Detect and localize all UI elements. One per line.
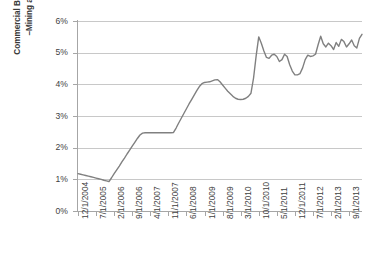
x-tick-mark bbox=[96, 212, 97, 216]
y-tick-mark bbox=[73, 116, 77, 117]
y-tick-label: 0% bbox=[38, 207, 68, 216]
x-tick-mark bbox=[205, 212, 206, 216]
y-tick-mark bbox=[73, 21, 77, 22]
x-tick-mark bbox=[349, 212, 350, 216]
plot-area bbox=[78, 21, 362, 211]
y-tick-label: 2% bbox=[38, 143, 68, 152]
x-tick-mark bbox=[78, 212, 79, 216]
y-tick-label: 5% bbox=[38, 48, 68, 57]
y-tick-label: 3% bbox=[38, 112, 68, 121]
y-tick-label: 1% bbox=[38, 175, 68, 184]
y-tick-mark bbox=[73, 148, 77, 149]
x-tick-mark bbox=[313, 212, 314, 216]
x-tick-mark bbox=[223, 212, 224, 216]
x-tick-mark bbox=[295, 212, 296, 216]
x-tick-mark bbox=[241, 212, 242, 216]
y-tick-mark bbox=[73, 179, 77, 180]
data-series-line bbox=[78, 21, 362, 211]
x-tick-mark bbox=[331, 212, 332, 216]
x-tick-mark bbox=[114, 212, 115, 216]
y-tick-mark bbox=[73, 53, 77, 54]
x-tick-mark bbox=[259, 212, 260, 216]
chart-container: Commercial Banks: Loans and Advances to … bbox=[0, 0, 374, 280]
y-tick-label: 6% bbox=[38, 17, 68, 26]
y-tick-mark bbox=[73, 211, 77, 212]
x-tick-mark bbox=[277, 212, 278, 216]
series-polyline bbox=[78, 34, 362, 181]
y-tick-label: 4% bbox=[38, 80, 68, 89]
y-tick-mark bbox=[73, 84, 77, 85]
